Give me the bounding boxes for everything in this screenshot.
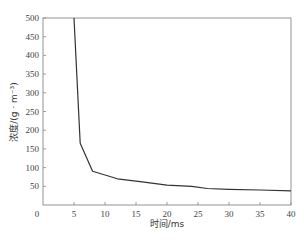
x-tick-label: 15 (132, 209, 142, 219)
x-tick-label: 5 (72, 209, 77, 219)
y-axis-label: 浓度/(g · m⁻³) (8, 82, 19, 141)
y-tick-label: 200 (26, 125, 40, 135)
y-tick-label: 150 (26, 144, 40, 154)
x-tick-label: 25 (194, 209, 204, 219)
plot-border (43, 18, 291, 205)
y-tick-label: 350 (26, 69, 40, 79)
x-tick-label: 40 (287, 209, 297, 219)
x-tick-label: 10 (101, 209, 111, 219)
plot-frame (43, 18, 291, 205)
y-tick-label: 300 (26, 88, 40, 98)
x-tick-label: 0 (35, 209, 40, 219)
data-series (74, 18, 291, 191)
x-tick-label: 35 (256, 209, 266, 219)
x-tick-label: 30 (225, 209, 235, 219)
y-tick-label: 450 (26, 32, 40, 42)
y-tick-label: 250 (26, 107, 40, 117)
x-axis-label: 时间/ms (150, 218, 185, 229)
series-line (74, 18, 291, 191)
y-tick-label: 50 (30, 181, 40, 191)
x-tick-label: 20 (163, 209, 173, 219)
y-tick-label: 400 (26, 50, 40, 60)
y-tick-label: 100 (26, 163, 40, 173)
y-tick-label: 500 (26, 13, 40, 23)
line-chart: 50100150200250300350400450500 0510152025… (0, 0, 304, 244)
